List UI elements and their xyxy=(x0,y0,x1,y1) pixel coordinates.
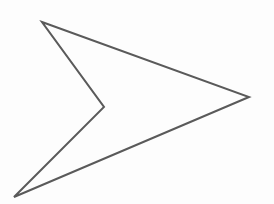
arrowhead-icon xyxy=(14,22,249,197)
diagram-canvas xyxy=(0,0,274,204)
arrowhead-figure xyxy=(0,0,274,204)
